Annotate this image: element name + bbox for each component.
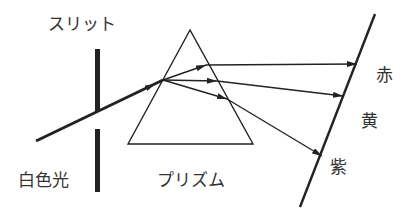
violet-ray-outer bbox=[227, 99, 322, 156]
yellow-label: 黄 bbox=[361, 113, 378, 130]
yellow-ray-outer bbox=[217, 81, 343, 96]
slit-label: スリット bbox=[48, 16, 116, 33]
dispersed-rays bbox=[163, 64, 357, 156]
white-light-label: 白色光 bbox=[18, 172, 69, 189]
red-label: 赤 bbox=[376, 67, 393, 84]
prism-label: プリズム bbox=[157, 172, 225, 189]
slit-bar bbox=[95, 49, 100, 192]
yellow-ray-inner bbox=[163, 80, 217, 81]
dispersion-diagram: スリット 白色光 プリズム 赤 黄 紫 bbox=[0, 0, 413, 220]
violet-ray-inner bbox=[163, 80, 227, 99]
red-ray-outer bbox=[206, 64, 357, 65]
violet-label: 紫 bbox=[330, 159, 347, 176]
